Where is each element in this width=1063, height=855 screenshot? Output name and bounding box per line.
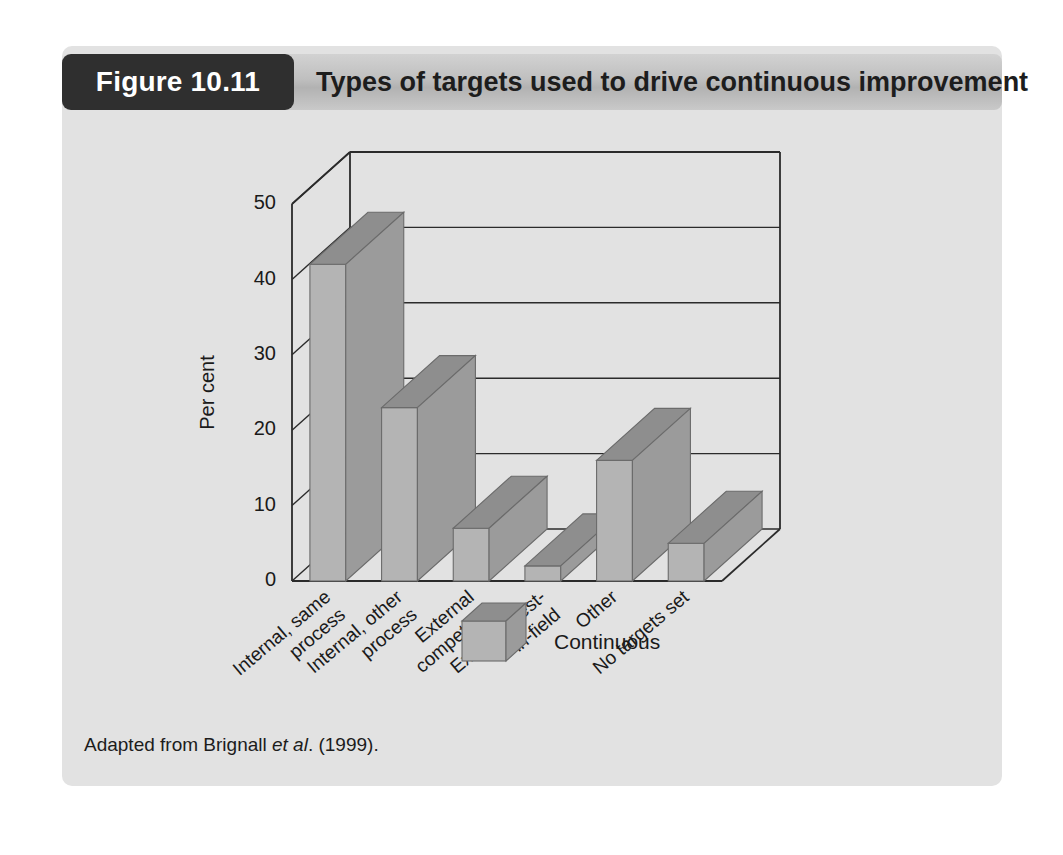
category-label-5: Other [571, 586, 621, 633]
y-tick-label: 10 [254, 493, 276, 515]
chart-legend: Continuous [462, 603, 660, 661]
legend-label: Continuous [554, 630, 660, 653]
source-prefix: Adapted from Brignall [84, 734, 272, 755]
y-tick-label: 30 [254, 342, 276, 364]
figure-title: Types of targets used to drive continuou… [316, 54, 1028, 110]
y-tick-label: 20 [254, 417, 276, 439]
legend-item-continuous: Continuous [462, 603, 660, 661]
source-suffix: . (1999). [308, 734, 379, 755]
y-tick-label: 0 [265, 568, 276, 590]
figure-number-label: Figure 10.11 [96, 66, 260, 98]
figure-header-bar: Figure 10.11 Types of targets used to dr… [62, 54, 1002, 110]
source-attribution: Adapted from Brignall et al. (1999). [84, 734, 379, 756]
y-tick-labels: 01020304050 [254, 191, 276, 590]
figure-panel: Figure 10.11 Types of targets used to dr… [62, 46, 1002, 786]
y-axis-title-label: Per cent [196, 355, 218, 430]
bar-chart-svg: 01020304050 Per cent Internal, sameproce… [62, 116, 1002, 716]
source-italic: et al [272, 734, 308, 755]
bars-group [310, 212, 762, 581]
figure-number-badge: Figure 10.11 [62, 54, 294, 110]
y-axis-title: Per cent [196, 355, 218, 430]
chart-area: 01020304050 Per cent Internal, sameproce… [62, 116, 1002, 716]
y-tick-label: 50 [254, 191, 276, 213]
y-tick-label: 40 [254, 267, 276, 289]
